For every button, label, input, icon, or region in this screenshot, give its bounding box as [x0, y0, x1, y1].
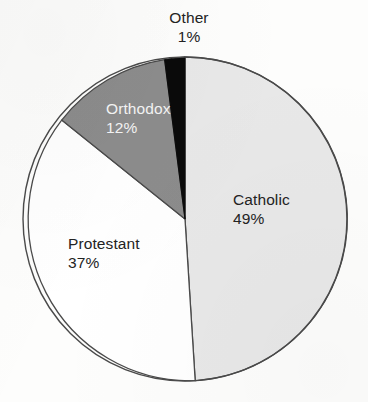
slice-label-protestant-name: Protestant [68, 235, 140, 252]
slice-label-catholic: Catholic 49% [233, 190, 290, 228]
slice-label-orthodox-name: Orthodox [106, 100, 171, 117]
pie-chart-figure: Other 1% Catholic 49% Protestant 37% Ort… [0, 0, 368, 402]
pie-chart-graphic [0, 0, 368, 402]
slice-label-other-name: Other [169, 9, 208, 26]
slice-label-orthodox: Orthodox 12% [106, 99, 171, 137]
slice-label-other: Other 1% [143, 8, 235, 46]
slice-label-catholic-value: 49% [233, 209, 290, 228]
slice-label-protestant: Protestant 37% [68, 234, 140, 272]
slice-label-other-value: 1% [143, 27, 235, 46]
slice-label-catholic-name: Catholic [233, 191, 290, 208]
slice-label-protestant-value: 37% [68, 253, 140, 272]
slice-label-orthodox-value: 12% [106, 118, 171, 137]
